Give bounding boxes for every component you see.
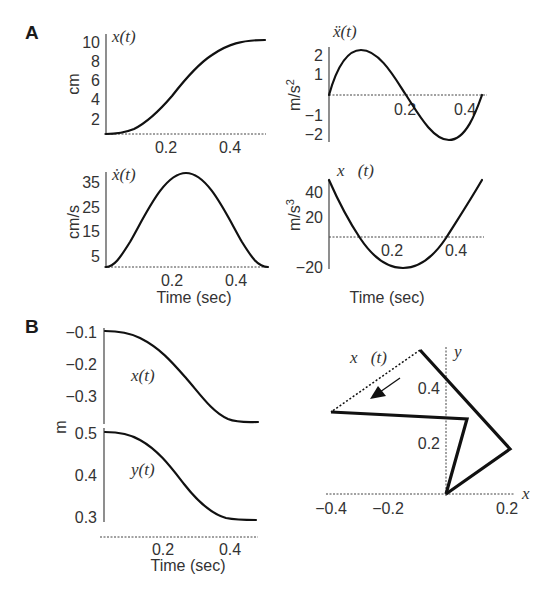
curve-label: x(t) [111, 27, 136, 46]
arm-end-configuration [331, 412, 467, 494]
chart-b-trajectories: −0.1 −0.2 −0.3 0.5 0.4 0.3 0.2 0.4 Time … [52, 324, 258, 574]
x-axis-title: x [521, 484, 530, 503]
y-tick: 4 [91, 91, 100, 108]
x-tick: 0.4 [225, 272, 247, 289]
curve-label: ẋ(t) [111, 165, 136, 184]
y-axis-title: cm/s [65, 205, 82, 239]
velocity-curve [106, 173, 268, 267]
x-tick: −0.4 [315, 500, 347, 517]
y-curve-label: y(t) [129, 460, 155, 479]
panel-label-a: A [25, 22, 39, 43]
y-tick: −1 [305, 107, 323, 124]
chart-a-velocity: ẋ(t) 35 25 15 5 0.2 0.4 Time (sec) cm/s [65, 165, 268, 306]
y-tick: −2 [305, 126, 323, 143]
x-tick: 0.2 [152, 541, 174, 558]
y-tick: 1 [314, 66, 323, 83]
chart-a-acceleration: ẍ(t) 2 1 −1 −2 0.2 0.4 m/s2 [284, 22, 487, 143]
y-tick: 25 [82, 199, 100, 216]
y-tick: 2 [314, 47, 323, 64]
arrow-head-icon [370, 386, 386, 399]
x-tick: 0.2 [381, 242, 403, 259]
y-tick: 0.2 [418, 435, 440, 452]
y-axis-title: cm [65, 73, 82, 94]
y-tick: 2 [91, 111, 100, 128]
x-trajectory-curve [105, 331, 258, 422]
y-axis-title: y [452, 342, 462, 361]
direction-arrow-shaft [380, 378, 400, 392]
chart-a-jerk: x⃛(t) 40 20 −20 0.2 0.4 Time (sec) m/s3 [284, 161, 484, 306]
panel-label-b: B [25, 316, 39, 337]
y-trajectory-curve [105, 432, 256, 520]
x-tick: 0.2 [155, 139, 177, 156]
y-tick: −0.2 [65, 356, 97, 373]
x-tick: 0.2 [496, 500, 518, 517]
y-axis-title: m/s3 [284, 199, 303, 231]
x-tick: 0.2 [161, 272, 183, 289]
y-tick: 0.3 [75, 509, 97, 526]
y-tick: −0.3 [65, 388, 97, 405]
curve-label: ẍ(t) [332, 22, 357, 41]
y-tick: 35 [82, 174, 100, 191]
y-tick: 0.5 [75, 425, 97, 442]
y-tick: 40 [305, 184, 323, 201]
x-axis-title: Time (sec) [350, 289, 425, 306]
y-tick: −20 [296, 259, 323, 276]
x-axis-title: Time (sec) [151, 557, 226, 574]
position-curve [106, 40, 265, 134]
y-tick: 15 [82, 223, 100, 240]
y-axis-title: m/s2 [284, 79, 303, 111]
y-tick: 10 [82, 34, 100, 51]
chart-b-arm: y x 0.4 0.2 −0.4 −0.2 0.2 x⃗(t) [315, 342, 530, 517]
y-tick: 0.4 [418, 380, 440, 397]
chart-a-position: x(t) 10 8 6 4 2 0.2 0.4 cm [65, 27, 266, 156]
x-tick: 0.4 [219, 541, 241, 558]
y-axis-title: m [52, 420, 69, 433]
y-tick: 8 [91, 53, 100, 70]
x-tick: −0.2 [372, 500, 404, 517]
vector-label: x⃗(t) [349, 348, 387, 367]
x-tick: 0.4 [219, 139, 241, 156]
x-tick: 0.4 [445, 242, 467, 259]
figure-canvas: A B x(t) 10 8 6 4 2 0.2 0.4 cm ẍ(t) 2 1 … [0, 0, 558, 600]
x-axis-title: Time (sec) [157, 289, 232, 306]
curve-label: x⃛(t) [336, 161, 374, 180]
y-tick: 20 [305, 209, 323, 226]
y-tick: 0.4 [75, 467, 97, 484]
x-tick: 0.2 [394, 101, 416, 118]
y-tick: 6 [91, 72, 100, 89]
x-curve-label: x(t) [130, 366, 155, 385]
y-tick: −0.1 [65, 324, 97, 341]
y-tick: 5 [91, 248, 100, 265]
